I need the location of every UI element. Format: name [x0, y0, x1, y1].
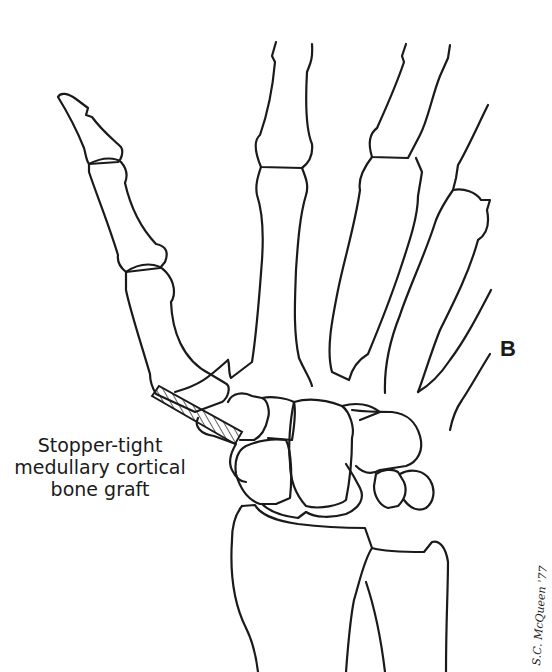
middle-finger-bones: [330, 44, 450, 380]
panel-letter: B: [500, 338, 516, 360]
hand-skeleton-illustration: [0, 0, 552, 672]
annotation-line-2: medullary cortical: [2, 456, 198, 478]
graft-annotation: Stopper-tight medullary cortical bone gr…: [2, 434, 198, 500]
ring-finger-bones: [385, 105, 490, 393]
forearm-bones: [231, 505, 448, 672]
annotation-line-3: bone graft: [2, 478, 198, 500]
annotation-line-1: Stopper-tight: [2, 434, 198, 456]
index-finger-bones: [175, 42, 312, 392]
thumb-bones: [58, 94, 229, 412]
carpal-bones: [228, 394, 433, 518]
